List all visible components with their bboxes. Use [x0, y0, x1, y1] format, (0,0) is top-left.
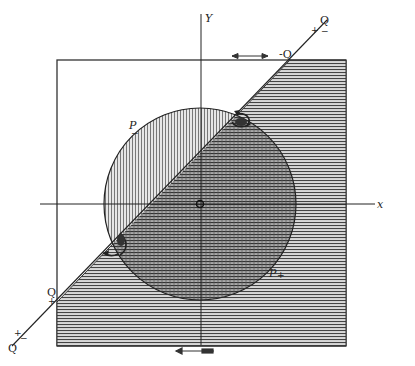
x-axis-label: x [377, 198, 384, 211]
left-plus-label: + [48, 296, 56, 306]
p-upper-sub: − [131, 128, 139, 138]
bottom-minus-label: − [20, 333, 28, 343]
bottom-double-arrow [176, 348, 214, 354]
p-lower-label: P [268, 267, 277, 280]
top-double-arrow [232, 54, 268, 59]
p-lower-sub: + [277, 270, 285, 280]
neg-q-label: -Q [279, 48, 292, 61]
top-plus-label: + [311, 25, 319, 35]
diagram-canvas: Y x Q + − -Q Q + Q + − P − P + [0, 0, 415, 366]
bottom-q-label: Q [8, 342, 17, 355]
top-minus-label: − [321, 26, 329, 36]
y-axis-label: Y [205, 12, 214, 25]
